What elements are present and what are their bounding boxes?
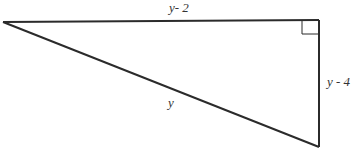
hypotenuse — [3, 22, 319, 147]
right-side-label: y - 4 — [325, 74, 351, 89]
right-angle-marker — [302, 21, 318, 34]
top-side-label: y- 2 — [167, 0, 189, 15]
triangle-diagram: y- 2 y - 4 y — [0, 0, 355, 151]
top-side — [3, 20, 319, 22]
hypotenuse-label: y — [166, 95, 174, 110]
